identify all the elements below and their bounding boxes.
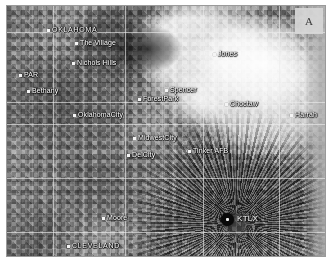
- city-marker-dot: [165, 89, 168, 92]
- radar-beam-spike-pattern: [121, 109, 326, 257]
- city-label-text: The Village: [80, 39, 116, 47]
- city-label-text: Moore: [107, 214, 127, 222]
- city-label-text: MidwestCity: [138, 134, 177, 142]
- city-label-text: Nichols Hills: [77, 59, 116, 67]
- city-marker-dot: [138, 98, 141, 101]
- county-marker-dot: [67, 245, 70, 248]
- city-marker-dot: [290, 114, 293, 117]
- city-marker-dot: [75, 42, 78, 45]
- city-marker-dot: [188, 150, 191, 153]
- county-label-text: OKLAHOMA: [52, 26, 97, 34]
- county-marker-dot: [47, 29, 50, 32]
- city-marker-dot: [102, 217, 105, 220]
- panel-letter-badge: A: [295, 8, 323, 34]
- city-label-text: ForestPark: [143, 95, 178, 103]
- grid-line-vertical: [53, 6, 54, 257]
- county-label-text: CLEVELAND: [72, 242, 120, 250]
- city-marker-dot: [27, 90, 30, 93]
- city-marker-dot: [19, 74, 22, 77]
- city-label-text: Jones: [218, 50, 237, 58]
- city-label-text: Choctaw: [230, 100, 258, 108]
- city-marker-dot: [225, 103, 228, 106]
- figure-root: OKLAHOMA CLEVELAND The Village Nichols H…: [0, 0, 333, 265]
- city-marker-dot: [72, 62, 75, 65]
- city-label-text: OklahomaCity: [78, 111, 123, 119]
- city-marker-dot: [133, 137, 136, 140]
- panel-letter-text: A: [305, 15, 313, 27]
- radar-image-panel: OKLAHOMA CLEVELAND The Village Nichols H…: [6, 5, 326, 257]
- city-label-text: Bethany: [32, 87, 58, 95]
- city-marker-dot: [127, 154, 130, 157]
- radar-site-label: KTLX: [237, 214, 258, 223]
- grid-line-vertical: [279, 6, 280, 257]
- city-label-text: PAR: [24, 71, 38, 79]
- city-marker-dot: [213, 53, 216, 56]
- city-label-text: DelCity: [132, 151, 155, 159]
- city-label-text: Spencer: [170, 86, 197, 94]
- city-marker-dot: [73, 114, 76, 117]
- city-label-text: Harrah: [295, 111, 317, 119]
- panel-edge-fade: [303, 6, 325, 256]
- city-label-text: Tinker AFB: [193, 147, 228, 155]
- radar-site-dot: [221, 213, 234, 226]
- grid-line-vertical: [203, 6, 204, 257]
